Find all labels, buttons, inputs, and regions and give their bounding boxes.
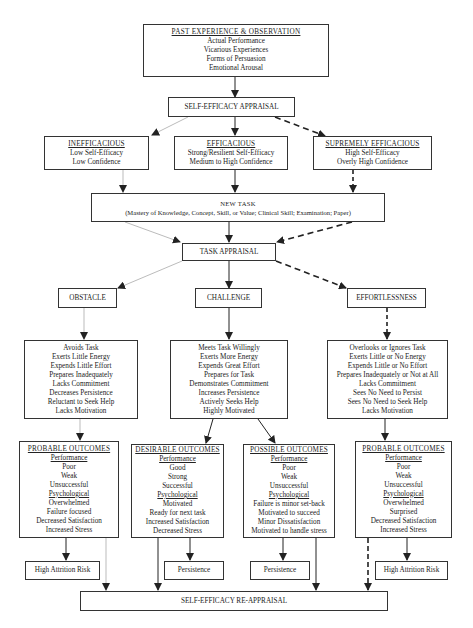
outcome-item: Motivated to handle stress: [251, 527, 327, 536]
behavior-item: Exerts Little or No Energy: [349, 353, 426, 362]
efficacy-level-title: SUPREMELY EFFICACIOUS: [325, 140, 419, 149]
psychological-label: Psychological: [157, 491, 197, 500]
performance-label: Performance: [385, 454, 422, 463]
self-efficacy-appraisal-box: SELF-EFFICACY APPRAISAL: [168, 97, 295, 117]
appraisal-type-label: OBSTACLE: [69, 294, 106, 303]
outcome-item: Unsuccessful: [384, 481, 422, 490]
behavior-item: Exerts Little Energy: [52, 353, 110, 362]
efficacy-level-item: Medium to High Confidence: [190, 158, 273, 167]
efficacy-level-item: Overly High Confidence: [337, 158, 408, 167]
psychological-label: Psychological: [49, 490, 89, 499]
past-experience-item: Emotional Arousal: [209, 64, 263, 73]
result-label: Persistence: [264, 566, 296, 575]
behavior-item: Sees No Need to Seek Help: [348, 398, 428, 407]
behavior-item: Reluctant to Seek Help: [48, 398, 114, 407]
outcome-item: Decreased Satisfaction: [371, 517, 437, 526]
challenge-behaviors-box: Meets Task Willingly Exerts More Energy …: [170, 340, 288, 419]
behavior-item: Prepares Inadequately: [49, 371, 113, 380]
possible-outcomes-box: POSSIBLE OUTCOMES Performance Poor Weak …: [243, 444, 335, 538]
re-appraisal-label: SELF-EFFICACY RE-APPRAISAL: [181, 597, 287, 606]
result-label: High Attrition Risk: [384, 566, 440, 575]
behavior-item: Overlooks or Ignores Task: [349, 344, 425, 353]
self-efficacy-appraisal-label: SELF-EFFICACY APPRAISAL: [184, 103, 278, 112]
outcome-title: POSSIBLE OUTCOMES: [250, 446, 328, 455]
outcome-title: PROBABLE OUTCOMES: [362, 445, 444, 454]
outcome-item: Strong: [168, 473, 187, 482]
outcome-item: Increased Stress: [46, 526, 93, 535]
obstacle-behaviors-box: Avoids Task Exerts Little Energy Expends…: [24, 340, 138, 419]
behavior-item: Expends Great Effort: [198, 362, 259, 371]
outcome-item: Decreased Stress: [153, 527, 202, 536]
inefficacious-box: INEFFICACIOUS Low Self-Efficacy Low Conf…: [44, 136, 149, 170]
appraisal-type-label: CHALLENGE: [207, 294, 250, 303]
result-label: Persistence: [178, 566, 210, 575]
past-experience-item: Actual Performance: [207, 37, 265, 46]
efficacy-level-item: Low Self-Efficacy: [70, 149, 123, 158]
task-appraisal-label: TASK APPRAISAL: [200, 248, 259, 257]
efficacy-level-item: Low Confidence: [72, 158, 120, 167]
behavior-item: Prepares for Task: [204, 371, 254, 380]
efficacy-level-item: High Self-Efficacy: [345, 149, 399, 158]
psychological-label: Psychological: [383, 490, 423, 499]
outcome-item: Weak: [281, 473, 297, 482]
past-experience-box: PAST EXPERIENCE & OBSERVATION Actual Per…: [143, 24, 329, 77]
outcome-item: Successful: [162, 482, 193, 491]
behavior-item: Lacks Motivation: [362, 407, 413, 416]
outcome-item: Ready for next task: [149, 509, 205, 518]
efficacy-level-title: EFFICACIOUS: [207, 140, 256, 149]
behavior-item: Meets Task Willingly: [198, 344, 260, 353]
outcome-item: Overwhelmed: [383, 499, 424, 508]
past-experience-item: Vicarious Experiences: [204, 46, 268, 55]
behavior-item: Expends Little or No Effort: [348, 362, 427, 371]
outcome-item: Failure is minor set-back: [253, 500, 325, 509]
behavior-item: Exerts More Energy: [200, 353, 258, 362]
outcome-item: Unsuccessful: [50, 481, 88, 490]
past-experience-title: PAST EXPERIENCE & OBSERVATION: [172, 28, 301, 37]
outcome-item: Increased Satisfaction: [146, 518, 209, 527]
outcome-item: Poor: [62, 463, 76, 472]
performance-label: Performance: [51, 454, 88, 463]
effortlessness-box: EFFORTLESSNESS: [347, 288, 426, 308]
behavior-item: Demonstrates Commitment: [189, 380, 268, 389]
outcome-item: Motivated: [163, 500, 193, 509]
behavior-item: Highly Motivated: [203, 407, 254, 416]
efficacious-box: EFFICACIOUS Strong/Resilient Self-Effica…: [174, 136, 288, 170]
new-task-subtitle: (Mastery of Knowledge, Concept, Skill, o…: [125, 208, 351, 217]
outcome-item: Good: [170, 464, 186, 473]
behavior-item: Avoids Task: [63, 344, 98, 353]
outcome-item: Minor Dissatisfaction: [258, 518, 320, 527]
behavior-item: Expends Little Effort: [51, 362, 112, 371]
desirable-outcomes-box: DESIRABLE OUTCOMES Performance Good Stro…: [131, 444, 224, 538]
outcome-item: Increased Stress: [380, 526, 427, 535]
behavior-item: Actively Seeks Help: [199, 398, 258, 407]
effortlessness-behaviors-box: Overlooks or Ignores Task Exerts Little …: [327, 340, 448, 419]
high-attrition-risk-box: High Attrition Risk: [25, 561, 100, 580]
outcome-item: Unsuccessful: [270, 482, 308, 491]
challenge-box: CHALLENGE: [195, 288, 262, 308]
outcome-item: Motivated to succeed: [258, 509, 319, 518]
behavior-item: Decreases Persistence: [49, 389, 112, 398]
outcome-item: Overwhelmed: [49, 499, 90, 508]
self-efficacy-re-appraisal-box: SELF-EFFICACY RE-APPRAISAL: [80, 591, 388, 611]
outcome-item: Decreased Satisfaction: [36, 517, 102, 526]
psychological-label: Psychological: [269, 491, 309, 500]
behavior-item: Sees No Need to Persist: [353, 389, 422, 398]
appraisal-type-label: EFFORTLESSNESS: [356, 294, 417, 303]
outcome-item: Surprised: [390, 508, 418, 517]
performance-label: Performance: [271, 455, 308, 464]
outcome-item: Poor: [282, 464, 296, 473]
behavior-item: Lacks Commitment: [359, 380, 416, 389]
supremely-efficacious-box: SUPREMELY EFFICACIOUS High Self-Efficacy…: [313, 136, 432, 170]
outcome-title: DESIRABLE OUTCOMES: [135, 446, 219, 455]
new-task-box: NEW TASK (Mastery of Knowledge, Concept,…: [91, 193, 385, 222]
behavior-item: Lacks Motivation: [56, 407, 107, 416]
efficacy-level-title: INEFFICACIOUS: [68, 140, 125, 149]
persistence-box: Persistence: [250, 561, 310, 580]
behavior-item: Prepares Inadequately or Not at All: [337, 371, 439, 380]
new-task-title: NEW TASK: [220, 199, 256, 208]
behavior-item: Lacks Commitment: [53, 380, 110, 389]
outcome-item: Failure focused: [47, 508, 92, 517]
outcome-item: Weak: [395, 472, 411, 481]
past-experience-item: Forms of Persuasion: [206, 55, 265, 64]
obstacle-outcomes-box: PROBABLE OUTCOMES Performance Poor Weak …: [19, 441, 119, 538]
